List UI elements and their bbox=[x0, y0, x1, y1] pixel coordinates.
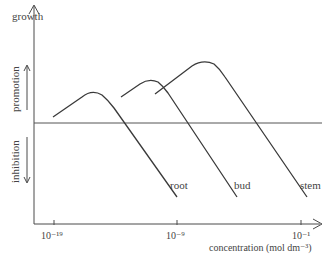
x-tick-label-1: 10⁻¹⁹ bbox=[41, 230, 63, 241]
series-stem-label: stem bbox=[300, 179, 321, 191]
y-axis-label: growth bbox=[12, 10, 44, 22]
x-axis-label: concentration (mol dm⁻³) bbox=[209, 242, 312, 254]
inhibition-label: inhibition bbox=[9, 140, 21, 183]
series-root-label: root bbox=[170, 179, 188, 191]
x-tick-label-2: 10⁻⁹ bbox=[166, 230, 185, 241]
growth-chart: growth promotion inhibition 10⁻¹⁹ 10⁻⁹ 1… bbox=[0, 0, 332, 259]
promotion-label: promotion bbox=[9, 66, 21, 112]
series-bud-label: bud bbox=[234, 179, 251, 191]
x-tick-label-3: 10⁻¹ bbox=[292, 230, 310, 241]
series-root-line bbox=[53, 92, 177, 197]
series-stem-line bbox=[155, 62, 307, 197]
